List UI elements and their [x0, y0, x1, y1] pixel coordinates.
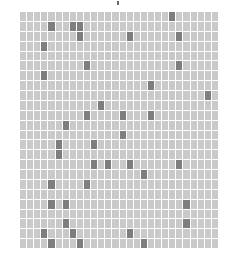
grid-cell-dark[interactable]	[91, 160, 97, 169]
grid-cell[interactable]	[176, 121, 182, 130]
grid-cell-dark[interactable]	[70, 22, 76, 31]
grid-cell[interactable]	[84, 200, 90, 209]
grid-cell[interactable]	[205, 111, 211, 120]
grid-cell[interactable]	[127, 150, 133, 159]
grid-cell[interactable]	[198, 180, 204, 189]
grid-cell[interactable]	[155, 111, 161, 120]
grid-cell[interactable]	[141, 180, 147, 189]
grid-cell[interactable]	[205, 160, 211, 169]
grid-cell[interactable]	[112, 22, 118, 31]
grid-cell[interactable]	[98, 160, 104, 169]
grid-cell[interactable]	[27, 219, 33, 228]
grid-cell[interactable]	[212, 180, 218, 189]
grid-cell[interactable]	[191, 210, 197, 219]
grid-cell[interactable]	[134, 32, 140, 41]
grid-cell[interactable]	[141, 111, 147, 120]
grid-cell[interactable]	[105, 121, 111, 130]
grid-cell[interactable]	[84, 160, 90, 169]
grid-cell[interactable]	[176, 210, 182, 219]
grid-cell-dark[interactable]	[48, 180, 54, 189]
grid-cell-dark[interactable]	[183, 219, 189, 228]
grid-cell[interactable]	[127, 239, 133, 248]
grid-cell[interactable]	[148, 140, 154, 149]
grid-cell[interactable]	[112, 42, 118, 51]
grid-cell[interactable]	[134, 200, 140, 209]
grid-cell[interactable]	[155, 180, 161, 189]
grid-cell[interactable]	[127, 200, 133, 209]
grid-cell[interactable]	[120, 229, 126, 238]
grid-cell[interactable]	[84, 22, 90, 31]
grid-cell[interactable]	[41, 200, 47, 209]
grid-cell[interactable]	[134, 22, 140, 31]
grid-cell[interactable]	[27, 239, 33, 248]
grid-cell[interactable]	[120, 101, 126, 110]
grid-cell[interactable]	[212, 150, 218, 159]
grid-cell[interactable]	[162, 81, 168, 90]
grid-cell[interactable]	[41, 239, 47, 248]
grid-cell[interactable]	[183, 229, 189, 238]
grid-cell[interactable]	[63, 12, 69, 21]
grid-cell[interactable]	[191, 121, 197, 130]
grid-cell[interactable]	[63, 91, 69, 100]
grid-cell[interactable]	[70, 121, 76, 130]
grid-cell[interactable]	[27, 140, 33, 149]
grid-cell[interactable]	[112, 91, 118, 100]
grid-cell[interactable]	[212, 91, 218, 100]
grid-cell[interactable]	[191, 42, 197, 51]
grid-cell[interactable]	[134, 210, 140, 219]
grid-cell[interactable]	[155, 239, 161, 248]
grid-cell[interactable]	[27, 180, 33, 189]
grid-cell[interactable]	[63, 170, 69, 179]
grid-cell[interactable]	[212, 61, 218, 70]
grid-cell[interactable]	[105, 239, 111, 248]
grid-cell[interactable]	[70, 12, 76, 21]
grid-cell[interactable]	[120, 22, 126, 31]
grid-cell[interactable]	[198, 170, 204, 179]
grid-cell[interactable]	[84, 121, 90, 130]
grid-cell[interactable]	[98, 61, 104, 70]
grid-cell[interactable]	[134, 229, 140, 238]
grid-cell[interactable]	[198, 121, 204, 130]
grid-cell[interactable]	[134, 239, 140, 248]
grid-cell[interactable]	[112, 210, 118, 219]
grid-cell[interactable]	[169, 160, 175, 169]
grid-cell[interactable]	[191, 150, 197, 159]
grid-cell[interactable]	[105, 190, 111, 199]
grid-cell[interactable]	[77, 42, 83, 51]
grid-cell[interactable]	[48, 42, 54, 51]
grid-cell[interactable]	[169, 81, 175, 90]
grid-cell[interactable]	[34, 12, 40, 21]
grid-cell-dark[interactable]	[205, 91, 211, 100]
grid-cell[interactable]	[205, 101, 211, 110]
grid-cell[interactable]	[112, 12, 118, 21]
grid-cell[interactable]	[176, 150, 182, 159]
grid-cell[interactable]	[141, 52, 147, 61]
grid-cell[interactable]	[56, 121, 62, 130]
grid-cell[interactable]	[205, 170, 211, 179]
grid-cell[interactable]	[198, 101, 204, 110]
grid-cell[interactable]	[176, 140, 182, 149]
grid-cell[interactable]	[48, 121, 54, 130]
grid-cell[interactable]	[70, 101, 76, 110]
grid-cell[interactable]	[162, 22, 168, 31]
grid-cell[interactable]	[91, 219, 97, 228]
grid-cell[interactable]	[84, 150, 90, 159]
grid-cell[interactable]	[63, 190, 69, 199]
grid-cell[interactable]	[127, 219, 133, 228]
grid-cell[interactable]	[212, 52, 218, 61]
grid-cell[interactable]	[56, 131, 62, 140]
grid-cell[interactable]	[84, 91, 90, 100]
grid-cell[interactable]	[205, 140, 211, 149]
grid-cell[interactable]	[77, 111, 83, 120]
grid-cell[interactable]	[176, 12, 182, 21]
grid-cell[interactable]	[205, 239, 211, 248]
grid-cell[interactable]	[34, 200, 40, 209]
grid-cell[interactable]	[162, 219, 168, 228]
grid-cell[interactable]	[162, 229, 168, 238]
grid-cell[interactable]	[27, 160, 33, 169]
grid-cell[interactable]	[77, 190, 83, 199]
grid-cell-dark[interactable]	[183, 200, 189, 209]
grid-cell[interactable]	[112, 52, 118, 61]
grid-cell[interactable]	[198, 71, 204, 80]
grid-cell[interactable]	[183, 22, 189, 31]
